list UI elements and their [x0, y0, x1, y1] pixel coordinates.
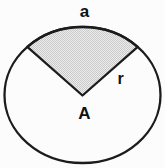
sector-diagram-svg: a r A — [0, 0, 165, 168]
radius-label: r — [117, 70, 123, 87]
circle-sector-figure: a r A — [0, 0, 165, 168]
arc-label: a — [80, 2, 90, 21]
center-label: A — [78, 104, 90, 123]
